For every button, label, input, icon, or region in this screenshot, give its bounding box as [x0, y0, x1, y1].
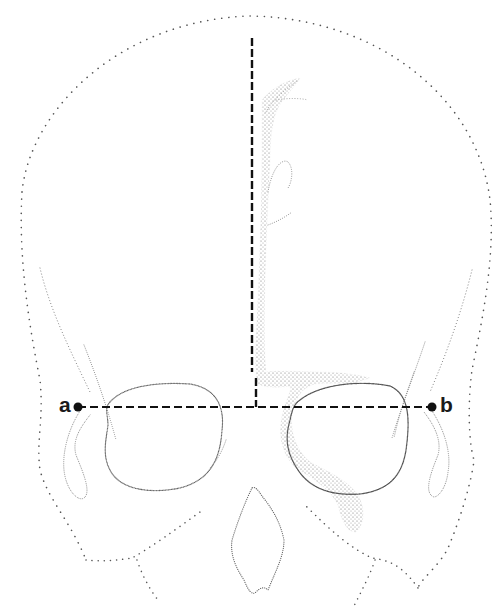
left-orbit [105, 383, 222, 490]
nasal-aperture [232, 487, 284, 593]
cranial-outline [21, 16, 491, 588]
temporal-line-left-inner [84, 345, 116, 440]
temporal-line-right-outer [430, 270, 472, 392]
right-orbit-inner-arc [394, 372, 414, 438]
lower-face-outline-left [86, 512, 200, 561]
point-a-marker [74, 403, 83, 412]
right-orbit [287, 383, 408, 494]
left-zygomatic-process [64, 408, 90, 499]
jaw-ramus-right [354, 560, 375, 606]
stippled-sinus-tract [256, 78, 370, 532]
temporal-line-left-outer [40, 268, 90, 392]
right-zygomatic-process [424, 408, 449, 497]
point-a-label: a [59, 394, 71, 415]
jaw-ramus-left [137, 560, 158, 600]
point-b-marker [428, 403, 437, 412]
skull-diagram [0, 0, 504, 612]
frontal-sinus-loop [268, 161, 292, 225]
point-b-label: b [440, 394, 453, 415]
